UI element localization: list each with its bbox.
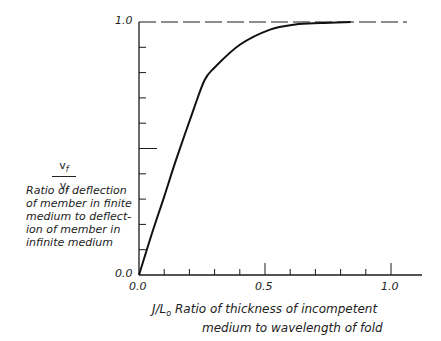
y-tick-label: 1.0 <box>115 14 133 27</box>
y-axis-label-line: of member in finite <box>26 197 132 210</box>
x-tick-label: 1.0 <box>381 280 399 293</box>
x-axis-label-line: Ratio of thickness of incompetent <box>175 302 377 316</box>
x-axis-symbol: J/Lo <box>152 302 171 316</box>
x-axis-label: J/Lo Ratio of thickness of incompetent m… <box>152 302 377 335</box>
y-axis-label-line: Ratio of deflection <box>26 184 132 197</box>
y-axis-label-line: ion of member in <box>26 223 132 236</box>
y-axis-label: Ratio of deflection of member in finite … <box>26 184 132 249</box>
y-axis-label-line: medium to deflect- <box>26 210 132 223</box>
x-axis-label-line: medium to wavelength of fold <box>202 321 427 335</box>
series-line <box>139 22 351 275</box>
y-axis-label-line: infinite medium <box>26 236 132 249</box>
x-tick-label: 0.0 <box>129 280 147 293</box>
y-tick-label: 0.0 <box>115 267 133 280</box>
x-tick-label: 0.5 <box>255 280 273 293</box>
